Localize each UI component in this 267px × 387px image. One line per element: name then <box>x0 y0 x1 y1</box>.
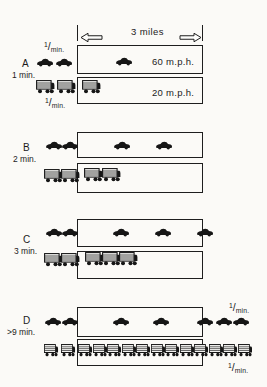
truck-icon <box>102 168 121 183</box>
section-letter-a: A <box>22 58 29 69</box>
car-icon <box>196 316 214 326</box>
car-icon <box>61 227 79 237</box>
car-icon <box>232 316 250 326</box>
truck-icon <box>61 344 76 358</box>
section-time-d: >9 min. <box>7 327 35 337</box>
truck-icon <box>122 344 137 358</box>
truck-icon <box>78 344 93 358</box>
rate-label-cars-in-a: 1/min. <box>44 41 64 54</box>
section-letter-b: B <box>23 142 30 153</box>
distance-label: 3 miles <box>131 26 164 37</box>
truck-icon <box>61 169 80 184</box>
truck-icon <box>82 80 101 95</box>
truck-icon <box>165 344 180 358</box>
rate-label-trucks-out-d: 1/min. <box>228 362 248 375</box>
car-lane-box-b <box>77 132 203 158</box>
car-icon <box>113 140 131 150</box>
rate-label-trucks-in-a: 1/min. <box>45 97 65 110</box>
section-letter-c: C <box>23 234 31 245</box>
truck-icon <box>61 253 80 268</box>
car-icon <box>215 316 233 326</box>
section-time-b: 2 min. <box>13 154 36 164</box>
truck-icon <box>119 252 138 267</box>
rate-denominator: min. <box>51 46 65 53</box>
truck-icon <box>223 344 238 358</box>
car-icon <box>112 316 130 326</box>
rate-label-cars-out-d: 1/min. <box>229 302 249 315</box>
car-icon <box>155 140 173 150</box>
truck-icon <box>93 344 108 358</box>
car-lane-box-d <box>77 307 203 337</box>
car-icon <box>154 227 172 237</box>
car-icon <box>61 316 79 326</box>
truck-icon <box>180 344 195 358</box>
car-icon <box>55 57 73 67</box>
car-lane-box-a <box>77 45 203 74</box>
truck-icon <box>151 344 166 358</box>
truck-icon <box>84 168 103 183</box>
truck-icon <box>57 80 76 95</box>
car-icon <box>196 227 214 237</box>
section-time-a: 1 min. <box>12 70 35 80</box>
car-icon <box>44 316 62 326</box>
left-dimension-tick <box>77 25 78 41</box>
rate-denominator: min. <box>52 102 66 109</box>
truck-icon <box>238 344 253 358</box>
car-icon <box>61 140 79 150</box>
right-dimension-tick <box>202 25 203 41</box>
car-icon <box>152 316 170 326</box>
traffic-flow-diagram: 3 miles A 1 min. B 2 min. C 3 min. D >9 … <box>0 0 267 387</box>
rate-denominator: min. <box>235 367 249 374</box>
truck-icon <box>107 344 122 358</box>
car-icon <box>115 56 133 66</box>
truck-icon <box>136 344 151 358</box>
car-icon <box>112 227 130 237</box>
rate-denominator: min. <box>236 307 250 314</box>
truck-icon <box>209 344 224 358</box>
truck-icon <box>44 344 59 358</box>
section-time-c: 3 min. <box>14 246 37 256</box>
truck-icon <box>194 344 209 358</box>
car-icon <box>36 57 54 67</box>
section-letter-d: D <box>23 315 31 326</box>
car-lane-box-c <box>77 219 203 247</box>
truck-icon <box>36 80 55 95</box>
